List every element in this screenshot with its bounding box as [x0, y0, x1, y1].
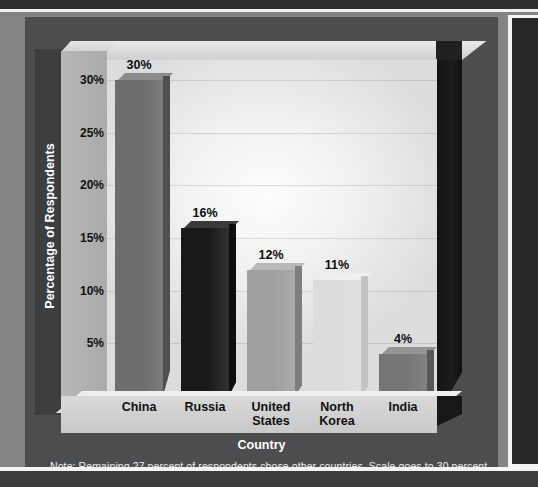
page-root: Percentage of Respondents 0%5%10%15%20%2…	[0, 0, 538, 487]
plot-box-right-wall	[437, 60, 462, 415]
y-axis-slab-face: 0%5%10%15%20%25%30%	[61, 51, 107, 396]
bar-side-face	[229, 224, 236, 397]
y-axis-title-band: Percentage of Respondents	[35, 49, 62, 415]
y-tick-label: 5%	[63, 336, 107, 350]
y-tick-label: 20%	[63, 178, 107, 192]
bar-side-face	[361, 276, 368, 396]
y-axis-title: Percentage of Respondents	[43, 56, 57, 396]
x-axis-title: Country	[61, 433, 462, 457]
top-white-rule	[0, 9, 538, 12]
plot-box-lid-right	[436, 41, 462, 61]
bar-front-face	[313, 280, 361, 396]
y-tick-label: 25%	[63, 126, 107, 140]
x-tick-label: India	[361, 400, 445, 414]
bar[interactable]: 11%	[313, 280, 361, 396]
top-dark-band	[0, 0, 538, 9]
bottom-dark-band	[0, 471, 538, 487]
bar-value-label: 12%	[236, 248, 306, 262]
bar[interactable]: 16%	[181, 228, 229, 397]
bar-value-label: 16%	[170, 206, 240, 220]
chart-frame: Percentage of Respondents 0%5%10%15%20%2…	[25, 17, 498, 467]
bar-front-face	[379, 354, 427, 396]
right-side-panel-inner	[512, 18, 538, 464]
bar-value-label: 11%	[302, 258, 372, 272]
bar[interactable]: 30%	[115, 80, 163, 396]
y-tick-label: 10%	[63, 284, 107, 298]
bar[interactable]: 4%	[379, 354, 427, 396]
bar-front-face	[181, 228, 229, 397]
bar-side-face	[427, 350, 434, 396]
bar-side-face	[163, 76, 170, 396]
right-side-panel	[508, 15, 538, 467]
bar-front-face	[115, 80, 163, 396]
bar-front-face	[247, 270, 295, 396]
y-tick-label: 30%	[63, 73, 107, 87]
bar-side-face	[295, 266, 302, 396]
bar-value-label: 30%	[104, 58, 174, 72]
bar-value-label: 4%	[368, 332, 438, 346]
bar[interactable]: 12%	[247, 270, 295, 396]
y-tick-label: 15%	[63, 231, 107, 245]
